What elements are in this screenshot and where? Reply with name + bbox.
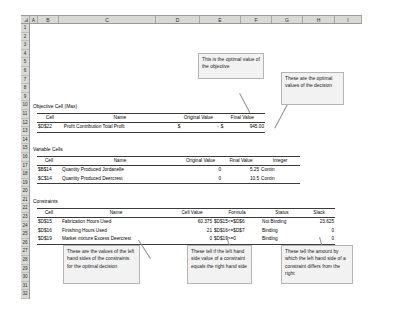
variables-col-cell: Cell bbox=[37, 156, 61, 166]
constraint-cell-ref: $D$16 bbox=[37, 227, 61, 236]
row-header-6[interactable]: 6 bbox=[21, 67, 29, 76]
constraints-header-row: Cell Name Cell Value Formula Status Slac… bbox=[37, 208, 335, 218]
constraint-slack: 0 bbox=[303, 227, 335, 236]
objective-section-title: Objective Cell (Max) bbox=[33, 104, 77, 109]
variable-original-value: 0 bbox=[179, 166, 222, 175]
objective-cell-name: Profit Contribution Total Profit bbox=[63, 123, 177, 133]
row-header-15[interactable]: 15 bbox=[21, 144, 29, 153]
constraint-status: Binding bbox=[261, 227, 303, 236]
table-row: $D$16 Finishing Hours Used 21 $D$16<=$D$… bbox=[37, 227, 335, 236]
objective-table: Cell Name Original Value Final Value $D$… bbox=[37, 113, 265, 133]
row-header-14[interactable]: 14 bbox=[21, 136, 29, 145]
column-header-b[interactable]: B bbox=[38, 16, 59, 23]
table-row: $D$19 Market mixture Excess Deercrest 0 … bbox=[37, 235, 335, 244]
row-header-28[interactable]: 28 bbox=[21, 256, 29, 265]
constraint-name: Market mixture Excess Deercrest bbox=[61, 235, 171, 244]
row-header-7[interactable]: 7 bbox=[21, 76, 29, 85]
row-header-12[interactable]: 12 bbox=[21, 119, 29, 128]
objective-col-original-value: Original Value bbox=[177, 113, 220, 123]
variable-cell-name: Quantity Produced Deercrest bbox=[61, 175, 179, 184]
row-header-18[interactable]: 18 bbox=[21, 170, 29, 179]
variable-cell-ref: $C$14 bbox=[37, 175, 61, 184]
row-header-24[interactable]: 24 bbox=[21, 222, 29, 231]
row-header-27[interactable]: 27 bbox=[21, 247, 29, 256]
constraint-cell-value: 21 bbox=[171, 227, 213, 236]
objective-final-value: 945.00 bbox=[231, 123, 265, 133]
select-all-corner[interactable] bbox=[21, 16, 30, 23]
callout-objective-value: This is the optimal value of the objecti… bbox=[198, 53, 264, 79]
row-header-13[interactable]: 13 bbox=[21, 127, 29, 136]
constraints-section-title: Constraints bbox=[33, 199, 58, 204]
variables-section-title: Variable Cells bbox=[33, 147, 63, 152]
row-header-10[interactable]: 10 bbox=[21, 101, 29, 110]
row-header-1[interactable]: 1 bbox=[21, 24, 29, 33]
constraints-table: Cell Name Cell Value Formula Status Slac… bbox=[37, 208, 335, 245]
table-row: $B$14 Quantity Produced Jordanelle 0 5.2… bbox=[37, 166, 300, 175]
variable-cell-ref: $B$14 bbox=[37, 166, 61, 175]
objective-col-final-value: Final Value bbox=[220, 113, 265, 123]
objective-row: $D$22 Profit Contribution Total Profit $… bbox=[37, 123, 265, 133]
column-header-a[interactable]: A bbox=[30, 16, 38, 23]
variable-original-value: 0 bbox=[179, 175, 222, 184]
constraint-status: Binding bbox=[261, 235, 303, 244]
variables-table: Cell Name Original Value Final Value Int… bbox=[37, 156, 300, 185]
row-header-5[interactable]: 5 bbox=[21, 58, 29, 67]
callout-lhs-values: These are the values of the left hand si… bbox=[63, 245, 140, 284]
row-header-25[interactable]: 25 bbox=[21, 230, 29, 239]
constraint-cell-ref: $D$15 bbox=[37, 218, 61, 227]
variables-header-row: Cell Name Original Value Final Value Int… bbox=[37, 156, 300, 166]
row-header-11[interactable]: 11 bbox=[21, 110, 29, 119]
row-header-29[interactable]: 29 bbox=[21, 265, 29, 274]
callout-binding-status: These tell if the left hand side value o… bbox=[187, 245, 252, 284]
row-header-4[interactable]: 4 bbox=[21, 50, 29, 59]
row-header-8[interactable]: 8 bbox=[21, 84, 29, 93]
row-header-19[interactable]: 19 bbox=[21, 179, 29, 188]
constraints-col-cell-value: Cell Value bbox=[171, 208, 213, 218]
row-header-9[interactable]: 9 bbox=[21, 93, 29, 102]
column-header-e[interactable]: E bbox=[200, 16, 241, 23]
constraints-col-formula: Formula bbox=[213, 208, 261, 218]
column-header-c[interactable]: C bbox=[59, 16, 156, 23]
objective-col-name: Name bbox=[63, 113, 177, 123]
constraint-name: Finishing Hours Used bbox=[61, 227, 171, 236]
variable-integer: Contin bbox=[260, 166, 300, 175]
row-header-3[interactable]: 3 bbox=[21, 41, 29, 50]
column-header-d[interactable]: D bbox=[156, 16, 200, 23]
row-header-26[interactable]: 26 bbox=[21, 239, 29, 248]
variable-final-value: 10.5 bbox=[222, 175, 260, 184]
objective-header-row: Cell Name Original Value Final Value bbox=[37, 113, 265, 123]
objective-cell-ref: $D$22 bbox=[37, 123, 63, 133]
row-header-22[interactable]: 22 bbox=[21, 204, 29, 213]
constraint-formula: $D$16<=$D$7 bbox=[213, 227, 261, 236]
constraint-formula: $D$19>=0 bbox=[213, 235, 261, 244]
row-header-16[interactable]: 16 bbox=[21, 153, 29, 162]
objective-final-currency: $ bbox=[220, 123, 231, 133]
constraints-col-slack: Slack bbox=[303, 208, 335, 218]
row-header-31[interactable]: 31 bbox=[21, 282, 29, 291]
variable-cell-name: Quantity Produced Jordanelle bbox=[61, 166, 179, 175]
constraints-col-status: Status bbox=[261, 208, 303, 218]
constraint-status: Not Binding bbox=[261, 218, 303, 227]
constraint-cell-value: 60.375 bbox=[171, 218, 213, 227]
row-header-21[interactable]: 21 bbox=[21, 196, 29, 205]
row-header-32[interactable]: 32 bbox=[21, 290, 29, 299]
constraints-col-name: Name bbox=[61, 208, 171, 218]
callout-optimal-decision: These are the optimal values of the deci… bbox=[281, 72, 344, 105]
column-header-h[interactable]: H bbox=[303, 16, 335, 23]
column-header-g[interactable]: G bbox=[272, 16, 303, 23]
variables-col-name: Name bbox=[61, 156, 179, 166]
objective-original-currency: $ bbox=[177, 123, 188, 133]
row-header-column: 1234567891011121314151617181920212223242… bbox=[21, 24, 30, 299]
variables-col-original-value: Original Value bbox=[179, 156, 222, 166]
row-header-20[interactable]: 20 bbox=[21, 187, 29, 196]
objective-original-value: - bbox=[188, 123, 220, 133]
column-header-i[interactable]: I bbox=[335, 16, 362, 23]
row-header-2[interactable]: 2 bbox=[21, 33, 29, 42]
column-header-f[interactable]: F bbox=[241, 16, 272, 23]
row-header-17[interactable]: 17 bbox=[21, 162, 29, 171]
row-header-23[interactable]: 23 bbox=[21, 213, 29, 222]
constraint-cell-ref: $D$19 bbox=[37, 235, 61, 244]
row-header-30[interactable]: 30 bbox=[21, 273, 29, 282]
variables-col-final-value: Final Value bbox=[222, 156, 260, 166]
variable-final-value: 5.25 bbox=[222, 166, 260, 175]
